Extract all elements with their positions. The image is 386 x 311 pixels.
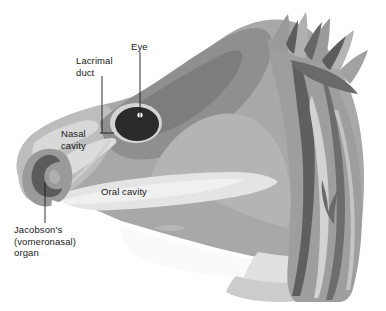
label-oral-cavity: Oral cavity <box>101 186 147 198</box>
anatomy-illustration <box>0 0 386 311</box>
label-lacrimal-duct: Lacrimal duct <box>76 55 113 78</box>
label-nasal-cavity: Nasal cavity <box>61 128 86 151</box>
eye <box>110 103 162 143</box>
label-jacobsons-organ: Jacobson's (vomeronasal) organ <box>14 224 76 259</box>
label-eye: Eye <box>131 41 148 53</box>
eyeball <box>115 107 159 141</box>
anatomy-figure: Lacrimal duct Eye Nasal cavity Oral cavi… <box>0 0 386 311</box>
